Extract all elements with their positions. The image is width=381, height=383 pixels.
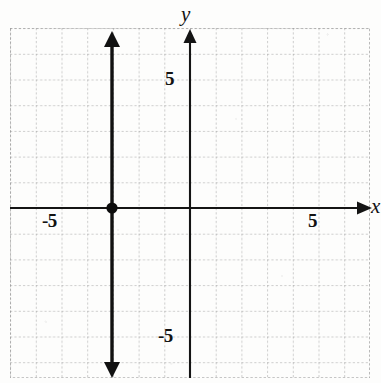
coordinate-plane — [0, 0, 381, 383]
y-axis-tick-label-5: 5 — [165, 68, 174, 90]
x-axis-tick-label-minus-5: -5 — [42, 210, 57, 232]
x-axis-tick-label-5: 5 — [308, 210, 317, 232]
point-x-intercept — [106, 202, 117, 213]
y-axis-tick-label-minus-5: -5 — [158, 325, 173, 347]
graph-figure: 5 -5 5 -5 y x — [0, 0, 381, 383]
y-axis-label: y — [181, 2, 190, 27]
x-axis-label: x — [371, 194, 380, 219]
